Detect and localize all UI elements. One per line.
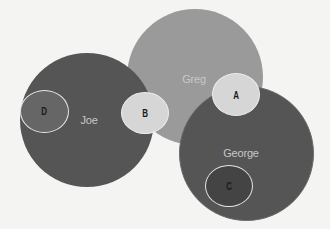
circle-diagram: Greg Joe George A B C D xyxy=(0,0,330,229)
label-c: C xyxy=(226,181,232,192)
label-joe: Joe xyxy=(80,114,97,126)
label-d: D xyxy=(41,106,47,117)
label-george: George xyxy=(223,147,259,159)
label-b: B xyxy=(142,108,148,119)
label-a: A xyxy=(233,90,239,101)
label-greg: Greg xyxy=(182,73,206,85)
